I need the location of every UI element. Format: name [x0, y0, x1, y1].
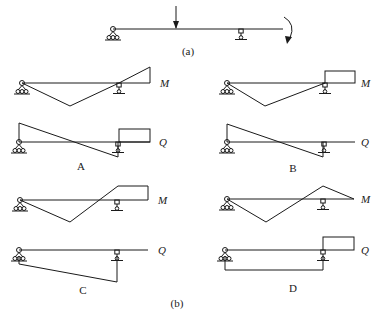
roller-support-icon	[318, 142, 330, 153]
moment-arrow-icon	[284, 17, 292, 44]
option-a-label: A	[77, 160, 85, 172]
roller-support-icon	[235, 29, 247, 40]
shear-label: Q	[159, 136, 167, 148]
shear-label: Q	[361, 244, 369, 256]
option-a-shear-diagram: Q A	[11, 123, 167, 172]
option-d-shear-diagram: Q D	[217, 237, 369, 294]
roller-support-icon	[317, 199, 329, 210]
option-c-moment-diagram: M	[12, 186, 168, 222]
option-d-label: D	[289, 282, 297, 294]
option-b-shear-diagram: Q B	[219, 124, 369, 174]
option-b-label: B	[289, 162, 296, 174]
option-b-moment-diagram: M	[219, 71, 371, 106]
part-b-label: (b)	[171, 297, 184, 310]
option-c-label: C	[79, 284, 86, 296]
moment-label: M	[360, 77, 371, 89]
beam-diagram-figure: (a) M Q A M Q B	[0, 0, 378, 318]
moment-label: M	[360, 193, 371, 205]
option-c-shear-diagram: Q C	[11, 244, 166, 296]
shear-label: Q	[361, 136, 369, 148]
roller-support-icon	[111, 200, 123, 211]
part-a-label: (a)	[182, 45, 195, 58]
shear-label: Q	[158, 244, 166, 256]
option-a-moment-diagram: M	[14, 67, 170, 106]
loaded-beam: (a)	[105, 6, 292, 58]
moment-label: M	[157, 194, 168, 206]
option-d-moment-diagram: M	[219, 186, 371, 222]
point-load-arrow-icon	[173, 6, 179, 29]
moment-label: M	[159, 77, 170, 89]
